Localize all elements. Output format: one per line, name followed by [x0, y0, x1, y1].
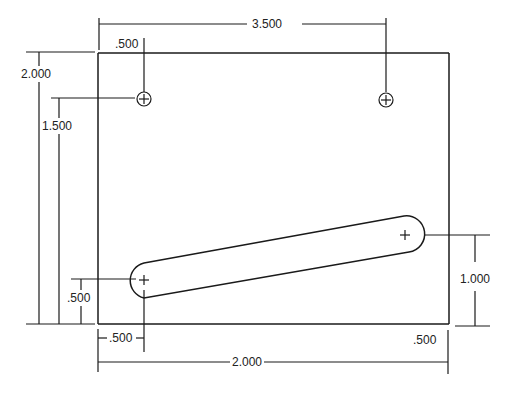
label-hole-height: 1.500	[40, 119, 74, 133]
top-left-hole-icon	[137, 92, 151, 106]
dim-bottom-2000	[98, 330, 448, 374]
label-top-hole-spacing: 3.500	[250, 17, 284, 31]
dim-height-2000	[26, 52, 95, 324]
plate-outline	[98, 53, 449, 324]
label-top-left-hole-offset: .500	[113, 37, 140, 51]
label-overall-height: 2.000	[19, 67, 53, 81]
label-slot-horizontal-span: 2.000	[230, 355, 264, 369]
label-slot-left-height: .500	[65, 291, 92, 305]
top-right-hole-icon	[379, 93, 393, 107]
label-slot-right-height: 1.000	[458, 272, 492, 286]
angled-slot	[130, 216, 424, 298]
dim-top-3500	[99, 18, 386, 92]
label-slot-left-offset: .500	[107, 331, 134, 345]
label-slot-right-offset: .500	[411, 333, 438, 347]
